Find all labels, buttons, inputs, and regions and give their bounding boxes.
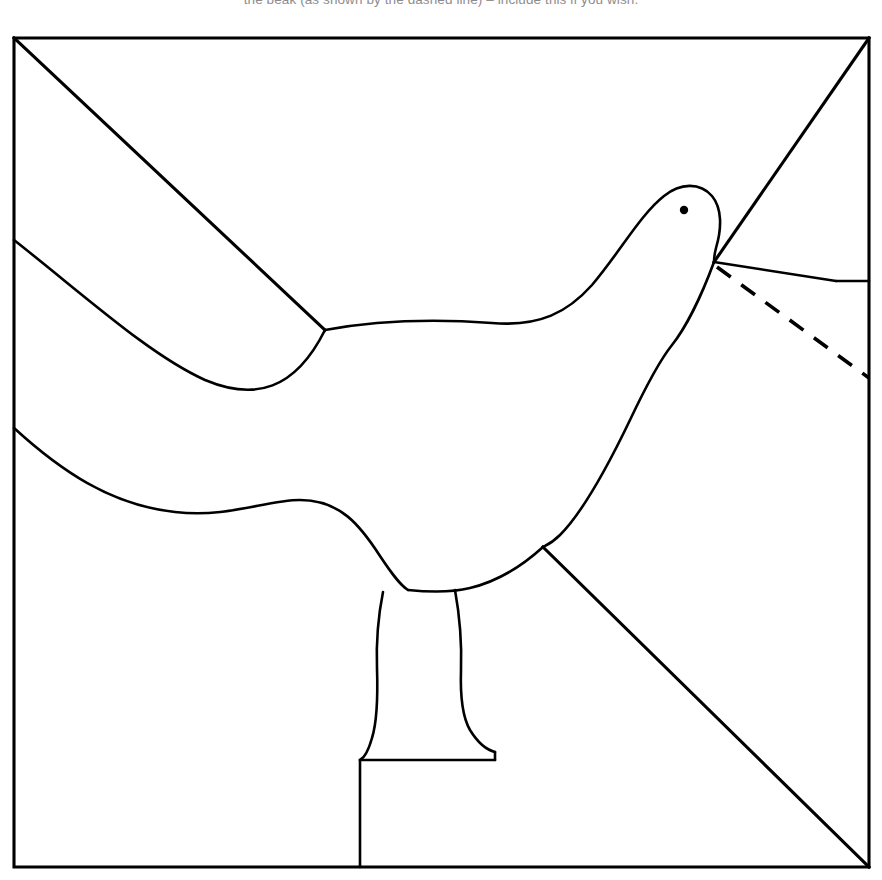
diagonal-top-right [714, 38, 869, 262]
wing-upper-curve [14, 240, 325, 390]
page-canvas: the beak (as shown by the dashed line) –… [0, 0, 882, 880]
bird-pattern-drawing [0, 0, 882, 880]
leg-right-outline [455, 590, 495, 752]
beak-upper-edge [714, 262, 836, 281]
eye-dot [680, 206, 688, 214]
diagonal-bottom-right [543, 547, 869, 867]
back-neck-head-curve [325, 186, 720, 330]
tail-lower-curve [14, 428, 408, 590]
belly-curve [408, 547, 543, 592]
diagonal-top-left [14, 38, 325, 330]
leg-left-outline [360, 592, 383, 760]
beak-dashed-guide [717, 267, 869, 378]
